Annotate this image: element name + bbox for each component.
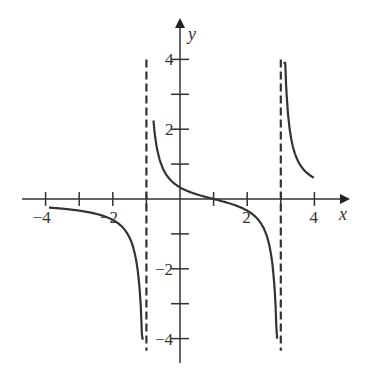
left-branch-curve bbox=[49, 208, 144, 339]
y-axis-label: y bbox=[186, 24, 196, 44]
y-tick-label: 2 bbox=[165, 120, 174, 139]
x-axis-label: x bbox=[338, 204, 347, 224]
axes: −4−224 42−2−4 x y bbox=[22, 20, 348, 363]
right-branch-curve bbox=[284, 63, 314, 178]
x-tick-label: −4 bbox=[33, 208, 52, 227]
y-tick-label: −4 bbox=[155, 330, 174, 349]
middle-branch-curve bbox=[154, 121, 278, 339]
y-tick-label: −2 bbox=[155, 260, 173, 279]
curves bbox=[49, 63, 314, 339]
function-graph: −4−224 42−2−4 x y bbox=[0, 0, 367, 377]
x-tick-label: 4 bbox=[309, 208, 318, 227]
y-tick-label: 4 bbox=[165, 50, 174, 69]
